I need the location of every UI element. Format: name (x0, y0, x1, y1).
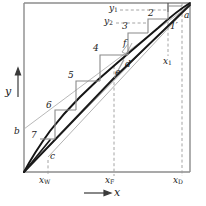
point-label-f: f (123, 39, 126, 48)
stage-label-2: 2 (148, 9, 154, 18)
stripping-operating-line (24, 78, 114, 172)
x-axis-arrow (84, 190, 111, 195)
stage-label-3: 3 (122, 22, 128, 31)
point-label-c: c (50, 152, 55, 161)
stage-label-6: 6 (46, 101, 52, 110)
stage-step-6 (55, 110, 76, 139)
x-axis-label: x (114, 187, 120, 198)
figure-root: y x xW xF xD y1 y2 x1 1′ 2 3 4 5 6 7 (0, 0, 206, 206)
tick-label-xD: xD (173, 176, 183, 185)
point-label-d: d (125, 60, 131, 69)
stage-label-7: 7 (31, 131, 37, 140)
tick-label-xW: xW (39, 176, 50, 185)
dashed-vertical-guides (48, 3, 182, 176)
y-axis-arrow (15, 68, 20, 97)
point-label-a: a (184, 11, 189, 20)
point-label-e: e (115, 68, 120, 77)
stage-label-4: 4 (93, 44, 99, 53)
stage-label-1prime: 1′ (170, 22, 178, 31)
tick-label-xF: xF (105, 176, 114, 185)
guide-label-y2: y2 (104, 17, 113, 26)
point-label-b: b (14, 127, 20, 136)
y-axis-label: y (5, 86, 11, 97)
guide-label-x1: x1 (163, 57, 172, 66)
stage-label-5: 5 (68, 71, 74, 80)
lower-dark-segment (24, 140, 50, 172)
guide-label-y1: y1 (109, 4, 118, 13)
construction-line-c-a (48, 5, 190, 157)
